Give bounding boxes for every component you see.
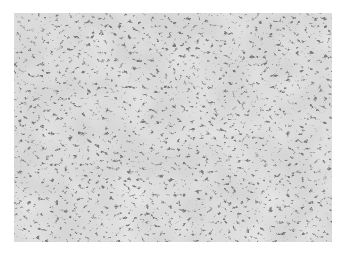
micrograph-image	[14, 13, 332, 242]
microstructure-texture	[14, 13, 332, 242]
